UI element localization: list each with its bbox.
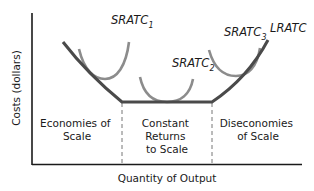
sratc1-label: SRATC1 xyxy=(111,13,153,30)
lratc-label: LRATC xyxy=(270,21,306,35)
region-constant-label: Constant Returns to Scale xyxy=(142,117,193,155)
sratc2-curve xyxy=(140,77,193,102)
lratc-curve xyxy=(63,40,268,102)
scale-economies-diagram: SRATC1 SRATC2 SRATC3 LRATC Economies of … xyxy=(0,0,314,191)
sratc1-curve xyxy=(79,42,129,79)
y-axis-label: Costs (dollars) xyxy=(10,50,22,126)
x-axis-label: Quantity of Output xyxy=(118,172,217,184)
region-economies-label: Economies of Scale xyxy=(40,117,114,142)
region-diseconomies-label: Diseconomies of Scale xyxy=(220,117,297,142)
sratc2-label: SRATC2 xyxy=(172,56,214,73)
sratc3-label: SRATC3 xyxy=(224,25,266,42)
